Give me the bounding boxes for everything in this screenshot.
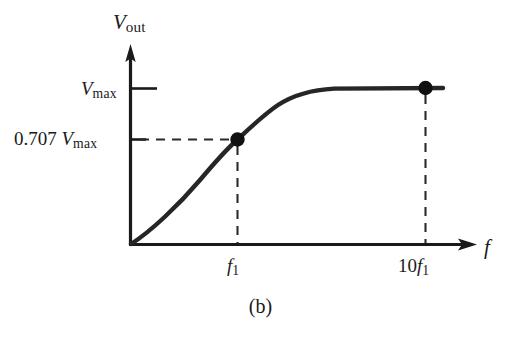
plot-canvas	[0, 0, 521, 345]
data-point-f1	[230, 132, 244, 146]
x-axis-title: f	[484, 237, 490, 258]
tenf1-prefix: 10	[398, 255, 417, 276]
tick-marks	[130, 89, 157, 140]
f1-sub: 1	[232, 263, 239, 278]
figure-caption: (b)	[0, 296, 521, 316]
figure-frequency-response: Vout Vmax 0.707 Vmax f1 10f1 f (b)	[0, 0, 521, 345]
x-tick-label-10f1: 10f1	[398, 256, 429, 278]
axis-group	[125, 44, 477, 250]
vmax-sub: max	[93, 86, 117, 101]
data-point-10f1	[418, 81, 432, 95]
tenf1-sub: 1	[422, 263, 429, 278]
y-axis-title-sub: out	[126, 19, 146, 35]
guide-lines	[140, 95, 426, 243]
y-tick-label-vmax: Vmax	[81, 79, 117, 101]
y-axis-title-main: V	[113, 10, 126, 34]
vmax-main: V	[81, 78, 93, 99]
v707-main: V	[62, 128, 74, 149]
v707-prefix: 0.707	[14, 128, 62, 149]
response-curve	[131, 88, 443, 244]
x-tick-label-f1: f1	[227, 256, 239, 278]
y-tick-label-v707: 0.707 Vmax	[14, 129, 97, 151]
v707-sub: max	[73, 136, 97, 151]
y-axis-title: Vout	[113, 12, 146, 35]
